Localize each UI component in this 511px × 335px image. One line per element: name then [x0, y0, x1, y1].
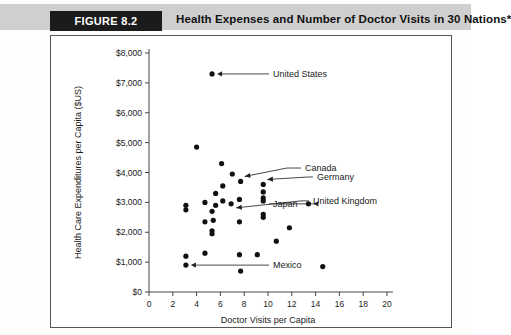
figure-title: Health Expenses and Number of Doctor Vis… — [176, 13, 511, 25]
x-tick-label: 6 — [218, 299, 223, 309]
data-point — [238, 179, 243, 184]
leader-line — [267, 177, 313, 179]
annotation-germany: Germany — [267, 172, 354, 182]
data-point — [237, 219, 242, 224]
x-tick-label: 2 — [170, 299, 175, 309]
x-axis-title: Doctor Visits per Capita — [221, 315, 315, 325]
data-point — [261, 215, 266, 220]
data-point — [261, 198, 266, 203]
leader-arrowhead — [191, 263, 196, 268]
annotation-mexico: Mexico — [191, 260, 302, 270]
x-tick-label: 16 — [335, 299, 345, 309]
data-point — [238, 268, 243, 273]
data-point — [211, 218, 216, 223]
data-point — [220, 198, 225, 203]
data-point — [183, 263, 188, 268]
annotation-label: Japan — [273, 199, 298, 209]
x-tick-label: 8 — [242, 299, 247, 309]
annotation-label: Mexico — [273, 260, 302, 270]
data-point — [213, 203, 218, 208]
data-point — [202, 200, 207, 205]
data-point — [287, 225, 292, 230]
x-tick-label: 18 — [358, 299, 368, 309]
data-point — [183, 203, 188, 208]
data-point — [320, 264, 325, 269]
data-point — [183, 254, 188, 259]
annotation-label: United States — [273, 69, 328, 79]
data-point — [237, 252, 242, 257]
plot-canvas: $0$1,000$2,000$3,000$4,000$5,000$6,000$7… — [51, 36, 451, 327]
leader-arrowhead — [236, 205, 242, 210]
x-tick-label: 10 — [263, 299, 273, 309]
data-point — [219, 161, 224, 166]
leader-arrowhead — [217, 71, 222, 76]
y-tick-label: $5,000 — [116, 138, 142, 148]
y-tick-label: $4,000 — [116, 168, 142, 178]
x-tick-label: 12 — [287, 299, 297, 309]
data-point — [261, 189, 266, 194]
y-tick-label: $6,000 — [116, 108, 142, 118]
data-point — [209, 71, 214, 76]
y-tick-label: $7,000 — [116, 78, 142, 88]
leader-arrowhead — [245, 173, 251, 178]
data-point — [220, 183, 225, 188]
data-point — [237, 197, 242, 202]
data-point — [202, 251, 207, 256]
figure-number-badge: FIGURE 8.2 — [50, 11, 162, 31]
leader-line — [245, 168, 301, 176]
y-tick-label: $8,000 — [116, 48, 142, 58]
data-point — [183, 207, 188, 212]
data-point — [202, 219, 207, 224]
data-point — [209, 209, 214, 214]
figure-number-text: FIGURE 8.2 — [75, 15, 138, 27]
data-point — [230, 171, 235, 176]
data-point — [274, 239, 279, 244]
data-point — [213, 191, 218, 196]
data-point — [229, 201, 234, 206]
y-tick-label: $3,000 — [116, 197, 142, 207]
data-point — [255, 252, 260, 257]
x-tick-label: 14 — [311, 299, 321, 309]
y-tick-label: $1,000 — [116, 257, 142, 267]
y-axis-title: Health Care Expenditures per Capita ($US… — [73, 86, 83, 259]
scatter-plot: $0$1,000$2,000$3,000$4,000$5,000$6,000$7… — [51, 36, 451, 327]
x-tick-label: 4 — [194, 299, 199, 309]
annotation-label: United Kingdom — [313, 196, 377, 206]
x-tick-label: 20 — [382, 299, 392, 309]
y-tick-label: $0 — [133, 287, 143, 297]
annotation-united-states: United States — [217, 69, 327, 79]
figure-frame: $0$1,000$2,000$3,000$4,000$5,000$6,000$7… — [50, 35, 452, 328]
data-point — [209, 231, 214, 236]
data-point — [261, 182, 266, 187]
x-tick-label: 0 — [147, 299, 152, 309]
annotation-layer: United StatesCanadaGermanyUnited Kingdom… — [191, 69, 377, 270]
data-point — [306, 201, 311, 206]
leader-arrowhead — [267, 177, 273, 182]
figure-header-bar: FIGURE 8.2 Health Expenses and Number of… — [0, 4, 471, 30]
y-tick-label: $2,000 — [116, 227, 142, 237]
annotation-label: Germany — [317, 172, 355, 182]
data-point — [194, 145, 199, 150]
